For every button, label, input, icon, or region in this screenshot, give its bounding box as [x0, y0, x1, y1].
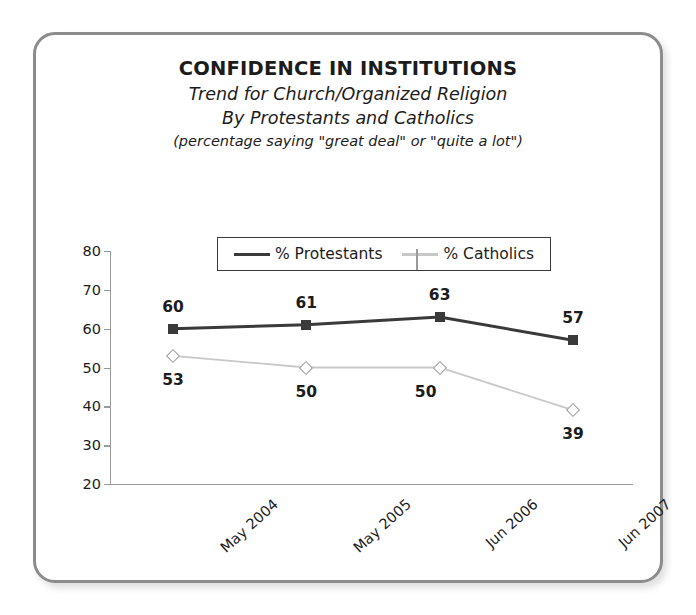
- y-axis-tick-label: 30: [83, 437, 101, 453]
- data-point-label: 50: [415, 383, 437, 401]
- x-axis-tick-label: May 2004: [217, 496, 281, 556]
- y-axis-tick: [104, 484, 110, 485]
- chart-subtitle-line-2: By Protestants and Catholics: [36, 107, 660, 130]
- series-line: [173, 317, 573, 340]
- chart-subtitle-line-1: Trend for Church/Organized Religion: [36, 83, 660, 106]
- chart-subtitle-line-3: (percentage saying "great deal" or "quit…: [36, 132, 660, 151]
- y-axis-tick-label: 60: [83, 321, 101, 337]
- data-point-label: 61: [296, 294, 318, 312]
- y-axis-tick-label: 70: [83, 282, 101, 298]
- data-point-label: 63: [429, 286, 451, 304]
- y-axis-tick-label: 50: [83, 360, 101, 376]
- x-axis-tick-label: Jun 2006: [482, 496, 540, 551]
- x-axis-line: [110, 484, 633, 485]
- series-lines: [110, 251, 633, 484]
- page-title: CONFIDENCE IN INSTITUTIONS: [36, 57, 660, 81]
- filled-square-marker: [168, 324, 178, 334]
- data-point-label: 50: [296, 383, 318, 401]
- x-axis-tick-label: May 2005: [351, 496, 415, 556]
- y-axis-tick-label: 20: [83, 476, 101, 492]
- series-line: [173, 356, 573, 410]
- filled-square-marker: [568, 335, 578, 345]
- y-axis-tick-label: 40: [83, 398, 101, 414]
- data-point-label: 60: [162, 298, 184, 316]
- filled-square-marker: [435, 312, 445, 322]
- y-axis-tick-label: 80: [83, 243, 101, 259]
- chart-frame: CONFIDENCE IN INSTITUTIONS Trend for Chu…: [33, 32, 663, 583]
- data-point-label: 53: [162, 371, 184, 389]
- data-point-label: 57: [562, 309, 584, 327]
- plot-area: 20304050607080 May 2004May 2005Jun 2006J…: [110, 251, 633, 484]
- filled-square-marker: [301, 320, 311, 330]
- data-point-label: 39: [562, 425, 584, 443]
- title-block: CONFIDENCE IN INSTITUTIONS Trend for Chu…: [36, 57, 660, 151]
- x-axis-tick-label: Jun 2007: [615, 496, 673, 551]
